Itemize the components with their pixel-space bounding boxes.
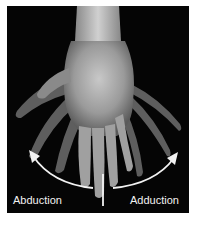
hand-illustration — [7, 6, 189, 213]
abduction-label: Abduction — [13, 194, 62, 206]
adduction-label: Adduction — [130, 194, 179, 206]
photo-panel: Abduction Adduction — [7, 6, 189, 213]
